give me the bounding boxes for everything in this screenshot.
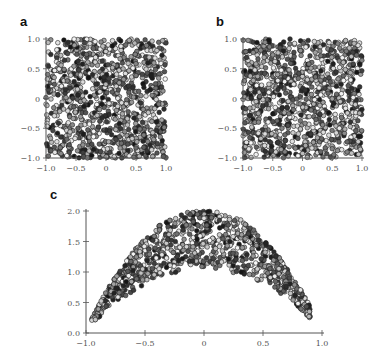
y-tick-label: −1.0 [218,154,237,163]
data-point [155,151,160,156]
data-point [259,257,264,262]
data-point [75,87,80,92]
data-point [303,143,308,148]
data-point [147,252,152,257]
data-point [53,150,58,155]
data-point [263,138,268,143]
data-point [49,97,54,102]
data-point [340,56,345,61]
data-point [140,278,145,283]
data-point [90,87,95,92]
data-point [307,314,312,319]
data-point [133,121,138,126]
data-point [151,238,156,243]
data-point [145,139,150,144]
data-point [312,39,317,44]
data-point [262,55,267,60]
data-point [248,87,253,92]
data-point [65,153,70,158]
data-point [279,147,284,152]
data-point [117,121,122,126]
data-point [182,237,187,242]
data-point [129,259,134,264]
data-point [223,232,228,237]
data-point [87,135,92,140]
data-point [150,266,155,271]
data-point [262,71,267,76]
data-point [108,128,113,133]
data-point [153,67,158,72]
data-point [303,88,308,93]
data-point [334,70,339,75]
data-point [105,147,110,152]
data-point [140,120,145,125]
data-point [83,110,88,115]
data-point [154,256,159,261]
data-point [67,143,72,148]
data-point [244,49,249,54]
data-point [308,54,313,59]
data-point [153,56,158,61]
data-point [72,79,77,84]
data-point [119,101,124,106]
data-point [149,148,154,153]
data-point [88,94,93,99]
y-tick-label: 0 [232,95,237,104]
x-tick-label: 1.0 [160,164,173,173]
data-point [283,91,288,96]
data-point [78,73,83,78]
y-tick-label: 1.0 [224,35,237,44]
data-point [171,250,176,255]
data-point [323,86,328,91]
data-point [62,58,67,63]
data-point [81,80,86,85]
data-point [173,216,178,221]
x-tick-label: 0 [300,164,305,173]
data-point [254,99,259,104]
data-point [62,38,67,43]
data-point [124,259,129,264]
data-point [351,95,356,100]
data-point [255,74,260,79]
data-point [291,298,296,303]
data-point [279,68,284,73]
data-point [175,232,180,237]
data-point [68,130,73,135]
data-point [120,61,125,66]
data-point [253,261,258,266]
x-tick-label: 1.0 [316,339,329,348]
data-point [296,136,301,141]
data-point [144,43,149,48]
data-point [356,152,361,157]
data-point [72,105,77,110]
data-point [228,239,233,244]
data-point [155,48,160,53]
data-point [165,237,170,242]
data-point [304,97,309,102]
data-point [217,218,222,223]
data-point [251,254,256,259]
data-point [243,222,248,227]
data-point [287,46,292,51]
data-point [150,39,155,44]
data-point [299,53,304,58]
data-point [201,259,206,264]
data-point [263,250,268,255]
data-point [191,245,196,250]
data-point [162,125,167,130]
data-point [277,272,282,277]
data-point [100,59,105,64]
data-point [64,95,69,100]
data-point [318,103,323,108]
data-point [341,60,346,65]
data-point [360,69,365,74]
data-point [66,109,71,114]
data-point [271,94,276,99]
data-point [56,40,61,45]
data-point [110,38,115,43]
data-point [259,83,264,88]
data-point [133,260,138,265]
data-point [226,223,231,228]
data-point [158,271,163,276]
data-point [244,55,249,60]
